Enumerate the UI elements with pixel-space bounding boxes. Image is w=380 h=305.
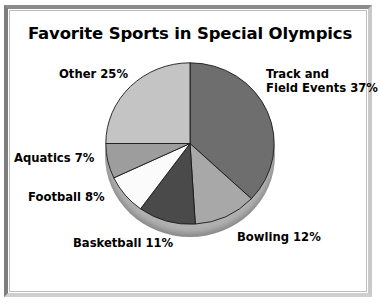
slice-label-other: Other 25% (59, 68, 128, 82)
slice-label-bowling: Bowling 12% (237, 231, 321, 245)
slice-label-track-line2: Field Events 37% (266, 81, 378, 95)
slice-label-basketball: Basketball 11% (73, 237, 173, 251)
chart-title: Favorite Sports in Special Olympics (0, 24, 380, 43)
slice-label-football: Football 8% (28, 191, 105, 205)
slice-label-track-and-field: Track andField Events 37% (266, 68, 378, 95)
pie-slices (105, 62, 275, 225)
chart-figure: Favorite Sports in Special Olympics Trac… (0, 0, 380, 305)
slice-label-track-line1: Track and (266, 67, 329, 81)
pie-chart (104, 62, 276, 240)
slice-label-aquatics: Aquatics 7% (14, 152, 94, 166)
